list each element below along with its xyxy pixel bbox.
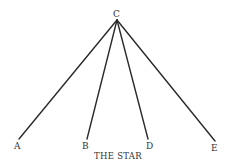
node-label-e: E: [211, 143, 218, 153]
node-label-a: A: [13, 141, 21, 151]
node-label-b: B: [82, 141, 89, 151]
diagram-caption: THE STAR: [94, 151, 142, 161]
node-label-d: D: [146, 141, 153, 151]
star-diagram: C A B D E THE STAR: [0, 0, 234, 163]
node-label-c: C: [113, 9, 120, 19]
edge-c-d: [117, 20, 148, 139]
edge-c-e: [117, 20, 215, 141]
